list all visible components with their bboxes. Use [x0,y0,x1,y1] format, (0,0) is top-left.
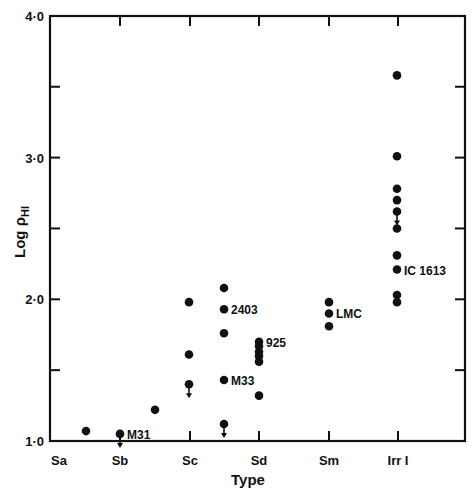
data-point [393,265,402,274]
axis-ticks [50,16,465,441]
data-point [82,427,91,436]
data-point [255,357,264,366]
scatter-plot: 1·02·03·04·0SaSbScSdSmIrr I M312403M3392… [0,0,476,495]
x-tick-label: Sb [112,453,129,468]
plot-frame [50,16,465,441]
data-point [151,406,160,415]
y-tick-label: 1·0 [25,434,44,449]
data-point [325,322,334,331]
svg-text:Log ρHI: Log ρHI [11,206,31,258]
point-label: 925 [266,336,286,350]
data-point [393,196,402,205]
data-point [220,376,229,385]
data-point [220,305,229,314]
x-tick-label: Sa [51,453,68,468]
data-point [325,309,334,318]
data-point [393,71,402,80]
data-point [220,329,229,338]
y-tick-label: 4·0 [25,9,44,24]
point-label: IC 1613 [404,264,446,278]
data-point [393,224,402,233]
y-axis-title-sub: HI [19,206,31,217]
data-point [255,391,264,400]
data-point [220,284,229,293]
y-tick-label: 3·0 [25,151,44,166]
arrow-head-icon [221,433,227,438]
y-tick-label: 2·0 [25,292,44,307]
x-axis-title: Type [231,471,265,488]
point-labels: M312403M33925LMCIC 1613 [127,264,446,442]
point-label: M31 [127,428,151,442]
x-tick-label: Irr I [388,453,409,468]
data-point [325,298,334,307]
data-points [82,71,402,448]
point-label: LMC [336,307,362,321]
point-label: M33 [231,374,255,388]
point-label: 2403 [231,303,258,317]
data-point [185,350,194,359]
x-tick-label: Sm [319,453,339,468]
arrow-head-icon [186,393,192,398]
data-point [393,251,402,260]
data-point [393,298,402,307]
data-point [185,298,194,307]
data-point [393,152,402,161]
data-point [393,184,402,193]
axis-tick-labels: 1·02·03·04·0SaSbScSdSmIrr I [25,9,408,468]
x-tick-label: Sd [251,453,268,468]
arrow-head-icon [117,443,123,448]
y-axis-title: Log ρHI [11,206,31,258]
y-axis-title-main: Log ρ [11,217,28,258]
x-tick-label: Sc [182,453,198,468]
